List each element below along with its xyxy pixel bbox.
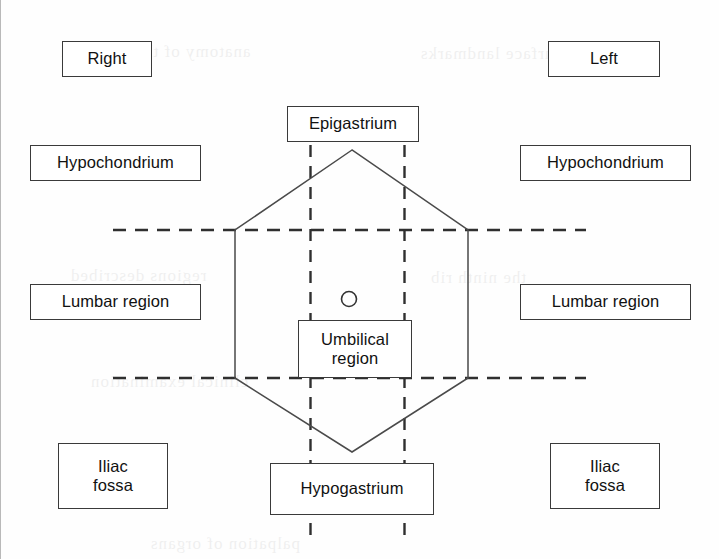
label-text-line1: Iliac (590, 457, 620, 476)
label-text: Hypochondrium (547, 153, 664, 172)
abdominal-regions-figure: anatomy of the abdomen surface landmarks… (0, 0, 719, 559)
label-left-iliac-fossa: Iliac fossa (550, 443, 660, 509)
label-epigastrium: Epigastrium (287, 106, 419, 142)
label-text-line2: fossa (93, 476, 133, 495)
label-text-line2: region (332, 349, 378, 368)
label-right-iliac-fossa: Iliac fossa (58, 443, 168, 509)
label-text: Hypochondrium (57, 153, 174, 172)
label-text: Lumbar region (552, 292, 660, 311)
label-umbilical-region: Umbilical region (298, 320, 412, 378)
label-right-lumbar-region: Lumbar region (30, 284, 201, 320)
label-right-hypochondrium: Hypochondrium (30, 145, 201, 181)
label-text-line1: Umbilical (321, 330, 389, 349)
label-left-header: Left (548, 41, 660, 77)
label-text-line2: fossa (585, 476, 625, 495)
umbilicus-icon (342, 292, 357, 307)
abdomen-outline (235, 150, 468, 452)
label-text: Epigastrium (309, 114, 397, 133)
label-hypogastrium: Hypogastrium (270, 463, 434, 515)
label-left-hypochondrium: Hypochondrium (520, 145, 691, 181)
label-text: Left (590, 49, 618, 68)
label-text: Hypogastrium (301, 479, 404, 498)
label-text-line1: Iliac (98, 457, 128, 476)
label-text: Right (87, 49, 126, 68)
label-left-lumbar-region: Lumbar region (520, 284, 691, 320)
label-text: Lumbar region (62, 292, 170, 311)
label-right-header: Right (62, 41, 152, 77)
